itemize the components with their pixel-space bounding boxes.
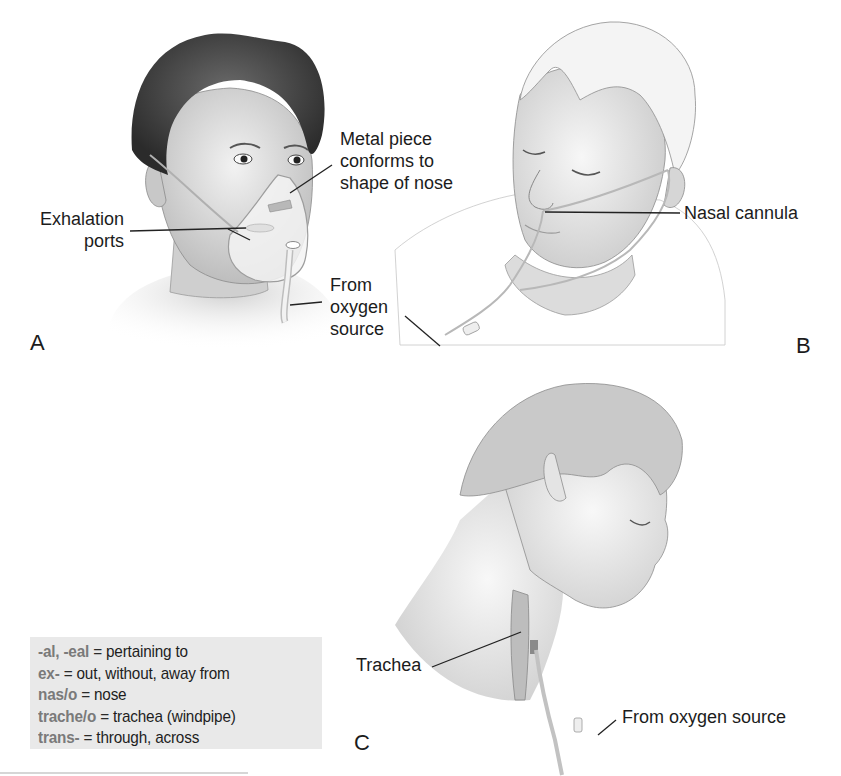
label-line: source [330,318,388,340]
word-part-term: ex- [38,664,60,683]
equals-sign: = [81,685,90,704]
label-oxygen-source-c: From oxygen source [622,706,786,728]
word-part-row: -al, -eal = pertaining to [38,641,294,663]
word-part-row: ex- = out, without, away from [38,663,294,685]
word-part-row: trans- = through, across [38,727,294,749]
panel-letter-a: A [30,330,45,356]
equals-sign: = [64,664,73,683]
word-part-definition: trachea (windpipe) [113,707,236,726]
word-part-term: -al, -eal [38,642,89,661]
label-line: oxygen [330,296,388,318]
word-part-definition: through, across [96,728,199,747]
label-exhalation-ports: Exhalation ports [28,208,124,252]
label-line: From [330,274,388,296]
panel-a-figure [108,34,345,350]
word-part-definition: pertaining to [106,642,188,661]
label-line: conforms to [340,150,453,172]
equals-sign: = [93,642,102,661]
label-nasal-cannula: Nasal cannula [684,202,798,224]
word-part-definition: nose [94,685,126,704]
label-line: Metal piece [340,128,453,150]
label-line: Exhalation [28,208,124,230]
word-part-term: trans- [38,728,79,747]
word-part-row: trache/o = trachea (windpipe) [38,706,294,728]
bottom-rule-divider [0,772,248,774]
equals-sign: = [100,707,109,726]
word-part-row: nas/o = nose [38,684,294,706]
label-oxygen-source-a: From oxygen source [330,274,388,340]
label-metal-piece: Metal piece conforms to shape of nose [340,128,453,194]
word-part-term: nas/o [38,685,77,704]
panel-letter-b: B [796,333,811,359]
word-part-term: trache/o [38,707,96,726]
label-line: shape of nose [340,172,453,194]
label-line: ports [28,230,124,252]
panel-letter-c: C [354,730,370,756]
word-parts-box: -al, -eal = pertaining to ex- = out, wit… [30,637,322,749]
word-part-definition: out, without, away from [77,664,230,683]
equals-sign: = [84,728,93,747]
label-trachea: Trachea [356,654,421,676]
